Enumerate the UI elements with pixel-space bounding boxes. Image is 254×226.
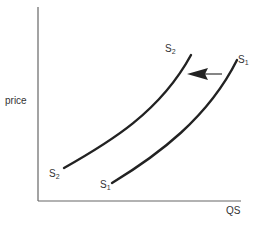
s1-upper-label: S1 bbox=[238, 54, 249, 66]
s2-upper-label: S2 bbox=[165, 43, 176, 55]
s1-lower-label: S1 bbox=[100, 179, 111, 191]
s1-curve bbox=[112, 60, 237, 183]
y-axis-label: price bbox=[5, 95, 27, 106]
s2-lower-label: S2 bbox=[49, 168, 60, 180]
x-axis-label: QS bbox=[226, 205, 241, 216]
shift-arrow bbox=[187, 68, 222, 80]
s2-curve bbox=[64, 55, 191, 168]
supply-shift-chart: price QS S2 S1 S2 S1 bbox=[0, 0, 254, 226]
